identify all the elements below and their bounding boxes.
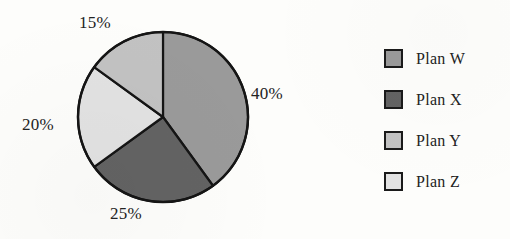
legend-item-plan-x: Plan X [384, 79, 502, 120]
chart-legend: Plan W Plan X Plan Y Plan Z [384, 38, 502, 202]
legend-item-plan-z: Plan Z [384, 161, 502, 202]
legend-item-plan-w: Plan W [384, 38, 502, 79]
legend-swatch-plan-y [384, 131, 403, 150]
legend-label-plan-y: Plan Y [416, 133, 461, 149]
pie-chart-area: 15% 40% 20% 25% [0, 0, 340, 239]
legend-item-plan-y: Plan Y [384, 120, 502, 161]
pie-chart-figure: 15% 40% 20% 25% Plan W Plan X Plan Y Pla… [0, 0, 510, 239]
legend-label-plan-w: Plan W [416, 51, 465, 67]
slice-data-label-15: 15% [79, 14, 111, 31]
legend-label-plan-x: Plan X [416, 92, 462, 108]
legend-swatch-plan-w [384, 49, 403, 68]
slice-data-label-20: 20% [22, 116, 54, 133]
legend-label-plan-z: Plan Z [416, 174, 460, 190]
slice-data-label-25: 25% [110, 205, 142, 222]
legend-swatch-plan-z [384, 172, 403, 191]
legend-swatch-plan-x [384, 90, 403, 109]
slice-data-label-40: 40% [251, 85, 283, 102]
